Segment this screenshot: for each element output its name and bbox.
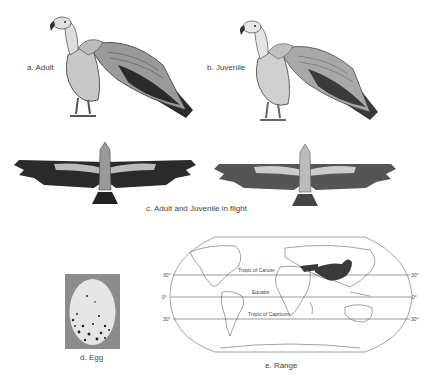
equator-label: Equator	[252, 289, 270, 295]
lat-left-30n: 30°	[163, 272, 171, 278]
adult-vulture-illustration	[48, 10, 198, 122]
tropic-of-cancer-label: Tropic of Cancer	[238, 267, 275, 273]
label-range: e. Range	[265, 361, 297, 370]
lat-right-0: 0°	[412, 294, 417, 300]
range-map: Tropic of Cancer Equator Tropic of Capri…	[160, 232, 424, 360]
label-egg: d. Egg	[80, 353, 103, 362]
lat-right-30s: 30°	[411, 316, 419, 322]
lat-left-30s: 30°	[163, 316, 171, 322]
tropic-of-capricorn-label: Tropic of Capricorn	[248, 311, 291, 317]
juvenile-flight-illustration	[214, 142, 396, 208]
lat-left-0: 0°	[162, 294, 167, 300]
juvenile-vulture-illustration	[238, 14, 388, 126]
egg-illustration	[65, 274, 120, 349]
lat-right-30n: 30°	[411, 272, 419, 278]
adult-flight-illustration	[14, 140, 196, 206]
label-flight: c. Adult and Juvenile in flight	[146, 204, 247, 213]
